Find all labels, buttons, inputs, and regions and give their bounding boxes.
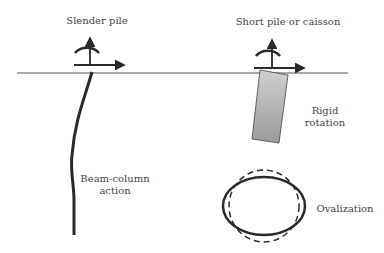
label-beam-line2: action — [80, 185, 150, 197]
label-ovalization: Ovalization — [314, 203, 376, 215]
caisson — [252, 70, 288, 143]
label-beam-column: Beam-column action — [80, 173, 150, 197]
label-slender-pile: Slender pile — [62, 15, 132, 27]
short-pile-load-icon — [254, 40, 304, 68]
label-rigid-line2: rotation — [300, 117, 350, 129]
label-beam-line1: Beam-column — [80, 173, 150, 185]
label-rigid-rotation: Rigid rotation — [300, 105, 350, 129]
slender-pile — [71, 72, 92, 235]
slender-pile-load-icon — [74, 38, 124, 65]
original-ring-dashed — [229, 170, 299, 242]
label-rigid-line1: Rigid — [300, 105, 350, 117]
label-short-pile: Short pile or caisson — [228, 16, 348, 28]
